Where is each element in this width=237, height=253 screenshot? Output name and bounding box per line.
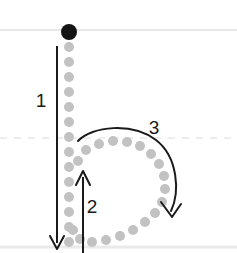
stroke-order-canvas: 1 2 3 bbox=[0, 0, 237, 253]
trace-dot bbox=[73, 156, 83, 166]
trace-dot bbox=[128, 225, 138, 235]
trace-dot bbox=[64, 177, 74, 187]
trace-dot bbox=[64, 192, 74, 202]
trace-dot bbox=[64, 102, 74, 112]
letter-diagram-svg: 1 2 3 bbox=[0, 0, 237, 253]
trace-dot bbox=[64, 117, 74, 127]
trace-dot bbox=[135, 141, 145, 151]
trace-dot bbox=[159, 171, 169, 181]
trace-dot bbox=[64, 87, 74, 97]
trace-dot bbox=[150, 208, 160, 218]
stroke-2-label: 2 bbox=[87, 196, 98, 217]
trace-dot bbox=[94, 139, 104, 149]
trace-dot bbox=[101, 235, 111, 245]
trace-dot bbox=[64, 162, 74, 172]
trace-dot bbox=[81, 145, 91, 155]
trace-dot bbox=[122, 137, 132, 147]
trace-dot bbox=[160, 184, 170, 194]
start-point-dot bbox=[61, 24, 77, 40]
trace-dot bbox=[64, 57, 74, 67]
trace-dot bbox=[146, 149, 156, 159]
trace-dot bbox=[64, 42, 74, 52]
trace-dot bbox=[64, 72, 74, 82]
trace-dot bbox=[115, 231, 125, 241]
stroke-1-label: 1 bbox=[36, 90, 47, 111]
stroke-1-arrow bbox=[50, 46, 64, 249]
trace-dot bbox=[64, 207, 74, 217]
trace-dot bbox=[64, 237, 74, 247]
trace-dots-stem bbox=[64, 42, 74, 247]
stroke-3-label: 3 bbox=[149, 117, 160, 138]
trace-dot bbox=[140, 217, 150, 227]
trace-dot bbox=[64, 132, 74, 142]
trace-dot bbox=[108, 136, 118, 146]
trace-dot bbox=[87, 237, 97, 247]
trace-dot bbox=[64, 147, 74, 157]
trace-dot bbox=[68, 225, 78, 235]
trace-dot bbox=[154, 159, 164, 169]
